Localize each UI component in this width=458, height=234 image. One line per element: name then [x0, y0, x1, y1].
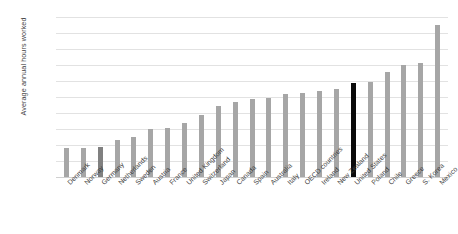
x-label-slot: Denmark	[58, 179, 75, 234]
x-label-slot: United Kingdom	[176, 179, 193, 234]
x-label-slot: Sweden	[126, 179, 143, 234]
x-label-slot: Italy	[277, 179, 294, 234]
y-axis-title: Average annual hours worked	[19, 0, 28, 142]
bar-slot	[244, 17, 261, 177]
bar[interactable]	[300, 93, 305, 177]
bar-slot	[412, 17, 429, 177]
bar-slot	[277, 17, 294, 177]
x-label-slot: Netherlands	[109, 179, 126, 234]
bar-slot	[261, 17, 278, 177]
bar-slot	[126, 17, 143, 177]
bar[interactable]	[266, 98, 271, 177]
x-axis-labels: DenmarkNorwayGermanyNetherlandsSwedenAus…	[56, 179, 448, 234]
bar[interactable]	[385, 72, 390, 177]
x-label-slot: New Zealand	[328, 179, 345, 234]
x-label-slot: Australia	[261, 179, 278, 234]
bar[interactable]	[418, 63, 423, 177]
bar-slot	[311, 17, 328, 177]
bar[interactable]	[401, 65, 406, 177]
x-label-slot: OECD countries	[294, 179, 311, 234]
x-label-slot: United States	[345, 179, 362, 234]
x-label-slot: Canada	[227, 179, 244, 234]
x-label-slot: Austria	[142, 179, 159, 234]
x-label-slot: Chile	[379, 179, 396, 234]
bar-slot	[58, 17, 75, 177]
x-label-slot: Poland	[362, 179, 379, 234]
x-label-slot: Japan	[210, 179, 227, 234]
bar-slot	[227, 17, 244, 177]
bar-slot	[176, 17, 193, 177]
bar-slot	[396, 17, 413, 177]
bar-slot	[159, 17, 176, 177]
bar-series	[56, 17, 448, 177]
bar[interactable]	[334, 89, 339, 177]
bar-slot	[345, 17, 362, 177]
bar[interactable]	[64, 148, 69, 177]
x-label-slot: S. Korea	[412, 179, 429, 234]
bar-slot	[142, 17, 159, 177]
bar-slot	[294, 17, 311, 177]
bar-slot	[429, 17, 446, 177]
bar[interactable]	[233, 102, 238, 177]
x-label-slot: Norway	[75, 179, 92, 234]
plot-area: 2,2002,1002,0001,9001,8001,7001,6001,500…	[56, 17, 448, 177]
x-label-slot: Greece	[396, 179, 413, 234]
x-label-slot: France	[159, 179, 176, 234]
x-label-slot: Germany	[92, 179, 109, 234]
bar-slot	[193, 17, 210, 177]
x-label-slot: Spain	[244, 179, 261, 234]
x-label-slot: Mexico	[429, 179, 446, 234]
bar-slot	[92, 17, 109, 177]
bar-slot	[75, 17, 92, 177]
bar[interactable]	[435, 25, 440, 177]
bar-slot	[109, 17, 126, 177]
x-label-slot: Ireland	[311, 179, 328, 234]
x-label-slot: Switzerland	[193, 179, 210, 234]
